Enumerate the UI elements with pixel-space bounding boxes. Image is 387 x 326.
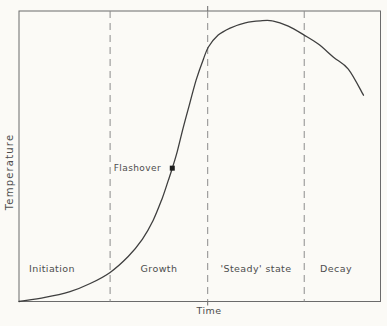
flashover-marker bbox=[170, 166, 175, 171]
fire-development-curve-figure: Temperature Time Flashover Initiation Gr… bbox=[0, 0, 387, 326]
temperature-curve bbox=[19, 20, 364, 301]
phase-label-steady-state: 'Steady' state bbox=[221, 263, 292, 274]
phase-label-initiation: Initiation bbox=[29, 263, 75, 274]
phase-label-decay: Decay bbox=[320, 263, 352, 274]
y-axis-label: Temperature bbox=[4, 134, 15, 211]
phase-label-growth: Growth bbox=[141, 263, 178, 274]
plot-frame bbox=[19, 11, 381, 302]
flashover-label: Flashover bbox=[114, 163, 161, 174]
chart-canvas bbox=[0, 0, 387, 326]
x-axis-label: Time bbox=[197, 305, 222, 316]
